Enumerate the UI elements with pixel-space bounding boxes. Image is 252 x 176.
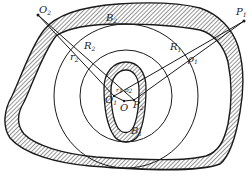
point-p1	[243, 20, 246, 23]
label-r2-lower: r2	[70, 51, 79, 63]
label-r2-upper: R2	[83, 40, 96, 52]
ray-p1-o1	[114, 21, 244, 96]
label-rho2: ρ2	[124, 86, 133, 94]
label-p1: P1	[235, 6, 247, 18]
outer-body-b2	[5, 3, 243, 170]
diagram-svg: O2 B2 P1 R2 r2 R1 ρ1 r1 ρ2 O1 O P2 B1	[0, 0, 252, 176]
diagram-figure: O2 B2 P1 R2 r2 R1 ρ1 r1 ρ2 O1 O P2 B1	[0, 0, 252, 176]
label-o: O	[120, 102, 128, 113]
label-R1: R1	[169, 41, 181, 53]
label-r1: r1	[116, 86, 123, 94]
label-o2: O2	[39, 4, 51, 16]
